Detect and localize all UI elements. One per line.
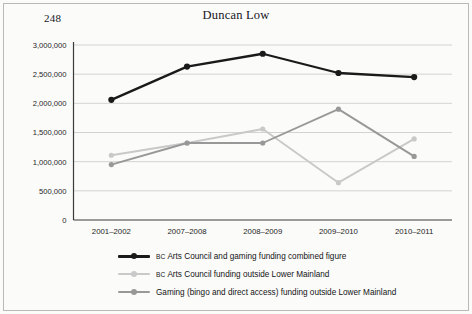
y-axis-tick-labels: 0500,0001,000,0001,500,0002,000,0002,500… [33, 41, 67, 225]
series-line [111, 54, 414, 100]
x-axis-tick-labels: 2001–20022007–20082008–20092009–20102010… [92, 227, 434, 236]
data-point-marker [109, 153, 114, 158]
data-point-marker [336, 107, 341, 112]
y-axis-tick-label: 0 [62, 216, 66, 225]
data-point-marker [260, 140, 265, 145]
legend-item[interactable]: BC Arts Council and gaming funding combi… [118, 247, 458, 265]
legend-item-label: BC Arts Council and gaming funding combi… [156, 252, 346, 261]
data-point-marker [260, 51, 266, 57]
data-point-marker [411, 74, 417, 80]
x-axis-tick-label: 2008–2009 [243, 227, 282, 236]
x-axis-tick-label: 2009–2010 [319, 227, 359, 236]
chart-legend: BC Arts Council and gaming funding combi… [118, 247, 458, 301]
y-axis-tick-label: 1,500,000 [33, 128, 67, 137]
y-axis-tick-label: 2,000,000 [33, 99, 67, 108]
y-axis-tick-label: 500,000 [39, 187, 66, 196]
x-axis-tick-label: 2001–2002 [92, 227, 131, 236]
y-axis-tick-label: 3,000,000 [33, 41, 67, 50]
data-point-marker [412, 136, 417, 141]
legend-item[interactable]: Gaming (bingo and direct access) funding… [118, 283, 458, 301]
legend-swatch-icon [118, 251, 150, 261]
legend-item-label: Gaming (bingo and direct access) funding… [156, 288, 396, 297]
series-line [111, 109, 414, 164]
data-point-marker [109, 162, 114, 167]
legend-label-smallcaps: BC [156, 253, 166, 260]
data-point-marker [184, 63, 190, 69]
series-line [111, 129, 414, 183]
x-axis-tick-label: 2007–2008 [168, 227, 207, 236]
data-series-group [108, 51, 417, 186]
legend-swatch-icon [118, 269, 150, 279]
legend-swatch-icon [118, 287, 150, 297]
data-point-marker [412, 154, 417, 159]
data-point-marker [336, 180, 341, 185]
legend-item-label: BC Arts Council funding outside Lower Ma… [156, 270, 329, 279]
y-axis-tick-label: 1,000,000 [33, 158, 67, 167]
legend-label-smallcaps: BC [156, 271, 166, 278]
y-axis-tick-label: 2,500,000 [33, 70, 67, 79]
gridlines-group [74, 45, 453, 191]
x-axis-tick-label: 2010–2011 [395, 227, 433, 236]
legend-item[interactable]: BC Arts Council funding outside Lower Ma… [118, 265, 458, 283]
data-point-marker [184, 140, 189, 145]
data-point-marker [335, 70, 341, 76]
data-point-marker [260, 126, 265, 131]
data-point-marker [108, 97, 114, 103]
